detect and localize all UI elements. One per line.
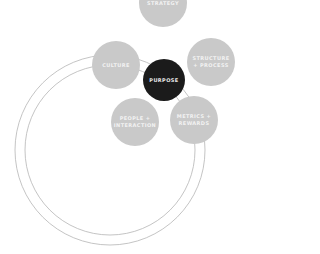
- node-purpose-label: PURPOSE: [149, 77, 178, 84]
- node-structure-process: STRUCTURE + PROCESS: [187, 38, 235, 86]
- node-culture-label: CULTURE: [102, 62, 130, 69]
- node-people-interaction: PEOPLE + INTERACTION: [111, 98, 159, 146]
- node-strategy-label: STRATEGY: [147, 0, 179, 7]
- node-structure-label: STRUCTURE + PROCESS: [190, 55, 232, 69]
- node-people-label: PEOPLE + INTERACTION: [114, 115, 156, 129]
- node-metrics-rewards: METRICS + REWARDS: [170, 96, 218, 144]
- node-purpose: PURPOSE: [143, 59, 185, 101]
- node-metrics-label: METRICS + REWARDS: [173, 113, 215, 127]
- node-culture: CULTURE: [92, 41, 140, 89]
